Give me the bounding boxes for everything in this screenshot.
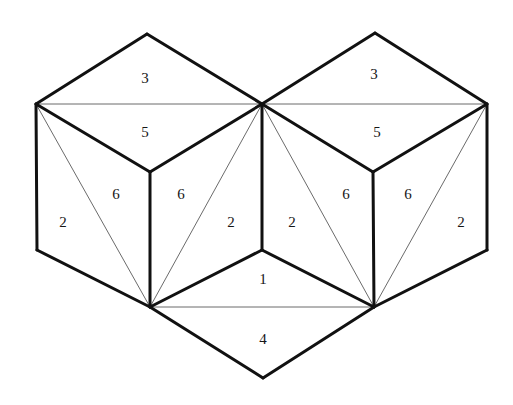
diagram-canvas: 35352662266214 (0, 0, 513, 405)
thin-edge-right-face-diagonal (374, 104, 487, 307)
thick-edge-left-outer-bottom-to-hub (37, 250, 150, 307)
thick-edge-left-outer-vertical (36, 104, 37, 250)
thick-edge-left-apex-to-left-outer (36, 34, 147, 104)
face-label-face-2-far-left: 2 (59, 214, 67, 230)
thick-edge-left-apex-to-center (147, 34, 262, 104)
thick-edge-right-outer-top-to-mid (373, 104, 487, 172)
face-label-face-6-left-a: 6 (112, 186, 120, 202)
face-label-face-6-right-a: 6 (342, 186, 350, 202)
thick-edge-group (36, 33, 487, 378)
thick-edge-right-outer-bottom-to-hub (374, 250, 487, 307)
thin-edge-left-inner-diagonal (150, 104, 262, 307)
thick-edge-right-mid-vertical (373, 172, 374, 307)
thick-edge-center-mid-to-left-hub (150, 250, 262, 307)
thick-edge-left-hub-to-bottom-apex (150, 307, 263, 378)
cube-net-figure: 35352662266214 (0, 0, 513, 405)
face-label-face-3-right: 3 (370, 66, 378, 82)
thick-edge-center-top-to-left-mid (150, 104, 262, 172)
thin-edge-right-inner-diagonal (262, 104, 374, 307)
thick-edge-right-hub-to-bottom-apex (263, 307, 374, 378)
thick-edge-center-mid-to-right-hub (262, 250, 374, 307)
thin-edge-left-face-diagonal (36, 104, 150, 307)
face-label-face-4-bottom: 4 (259, 331, 267, 347)
face-label-face-5-right: 5 (373, 124, 381, 140)
face-label-face-2-inner-left: 2 (227, 214, 235, 230)
face-label-face-3-left: 3 (141, 70, 149, 86)
face-label-face-6-right-b: 6 (404, 186, 412, 202)
face-label-face-5-left: 5 (141, 124, 149, 140)
face-label-face-2-inner-right: 2 (288, 214, 296, 230)
thick-edge-right-apex-to-right-outer (375, 33, 487, 104)
face-label-face-1-center: 1 (259, 271, 267, 287)
face-label-face-6-left-b: 6 (177, 186, 185, 202)
thick-edge-center-top-to-right-mid (262, 104, 373, 172)
thick-edge-left-outer-top-to-mid (36, 104, 150, 172)
thick-edge-right-apex-to-center (262, 33, 375, 104)
face-label-face-2-far-right: 2 (457, 214, 465, 230)
